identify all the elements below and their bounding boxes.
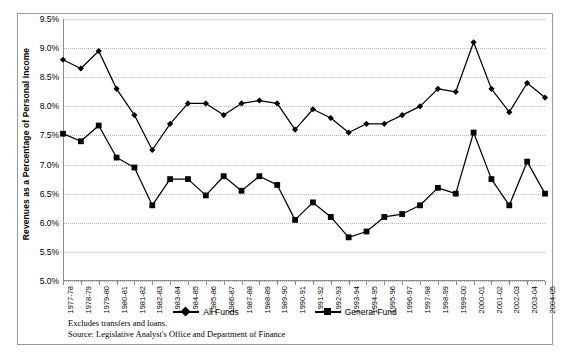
- data-point: [96, 123, 102, 129]
- data-point: [274, 182, 280, 188]
- legend-marker-square-icon: [315, 307, 341, 317]
- chart-figure: Revenues as a Percentage of Personal Inc…: [0, 0, 570, 360]
- data-point: [470, 39, 476, 45]
- data-point: [542, 191, 548, 197]
- x-axis-tick-mark: [456, 281, 457, 285]
- data-point: [203, 193, 209, 199]
- y-axis-title: Revenues as a Percentage of Personal Inc…: [21, 44, 31, 244]
- x-axis-tick-mark: [134, 281, 135, 285]
- x-axis-tick-mark: [188, 281, 189, 285]
- plot-area-wrapper: 9.5%9.0%8.5%8.0%7.5%7.0%6.5%6.0%5.5%5.0%…: [63, 19, 545, 281]
- x-axis-tick-mark: [259, 281, 260, 285]
- data-point: [471, 130, 477, 136]
- data-point: [399, 112, 405, 118]
- x-axis-tick-mark: [81, 281, 82, 285]
- y-axis-tick-label: 8.0%: [40, 101, 59, 111]
- x-axis-tick-mark: [277, 281, 278, 285]
- series-line-general-fund: [63, 126, 545, 238]
- x-axis-tick-mark: [366, 281, 367, 285]
- data-point: [149, 202, 155, 208]
- x-axis-tick-mark: [420, 281, 421, 285]
- data-point: [453, 191, 459, 197]
- y-axis-tick-label: 9.0%: [40, 43, 59, 53]
- x-axis-tick-mark: [349, 281, 350, 285]
- data-point: [435, 185, 441, 191]
- x-axis-tick-mark: [313, 281, 314, 285]
- data-point: [221, 173, 227, 179]
- series-canvas: [63, 19, 545, 281]
- data-point: [381, 121, 387, 127]
- data-point: [399, 211, 405, 217]
- legend-label-general-fund: General Fund: [345, 307, 397, 317]
- legend-marker-diamond-icon: [173, 307, 199, 317]
- chart-notes: Excludes transfers and loans. Source: Le…: [68, 318, 285, 341]
- data-point: [310, 200, 316, 206]
- data-point: [167, 176, 173, 182]
- x-axis-tick-mark: [242, 281, 243, 285]
- x-axis-tick-mark: [509, 281, 510, 285]
- data-point: [185, 176, 191, 182]
- x-axis-tick-mark: [384, 281, 385, 285]
- data-point: [203, 100, 209, 106]
- data-point: [506, 202, 512, 208]
- data-point: [453, 89, 459, 95]
- x-axis-tick-mark: [491, 281, 492, 285]
- x-axis-tick-mark: [99, 281, 100, 285]
- data-point: [364, 229, 370, 235]
- legend-item-general-fund: General Fund: [315, 307, 397, 317]
- x-axis-tick-mark: [438, 281, 439, 285]
- x-axis-tick-mark: [170, 281, 171, 285]
- x-axis-tick-mark: [117, 281, 118, 285]
- data-point: [417, 202, 423, 208]
- data-point: [239, 188, 245, 194]
- data-point: [363, 121, 369, 127]
- data-point: [524, 159, 530, 165]
- note-source: Source: Legislative Analyst's Office and…: [68, 329, 285, 340]
- data-point: [78, 138, 84, 144]
- x-axis-tick-mark: [402, 281, 403, 285]
- data-point: [292, 217, 298, 223]
- chart-legend: All Funds General Fund: [0, 307, 570, 317]
- legend-label-all-funds: All Funds: [203, 307, 238, 317]
- y-axis-tick-label: 6.0%: [40, 218, 59, 228]
- data-point: [60, 131, 66, 137]
- data-point: [256, 173, 262, 179]
- data-point: [238, 100, 244, 106]
- y-axis-tick-label: 5.5%: [40, 247, 59, 257]
- x-axis-tick-mark: [527, 281, 528, 285]
- data-point: [114, 155, 120, 161]
- plot-area: 9.5%9.0%8.5%8.0%7.5%7.0%6.5%6.0%5.5%5.0%…: [63, 19, 545, 281]
- y-axis-tick-label: 5.0%: [40, 276, 59, 286]
- y-axis-tick-label: 7.0%: [40, 160, 59, 170]
- y-axis-tick-label: 7.5%: [40, 130, 59, 140]
- data-point: [346, 234, 352, 240]
- y-axis-tick-label: 6.5%: [40, 189, 59, 199]
- data-point: [489, 176, 495, 182]
- x-axis-tick-mark: [206, 281, 207, 285]
- legend-item-all-funds: All Funds: [173, 307, 238, 317]
- data-point: [221, 112, 227, 118]
- x-axis-tick-mark: [545, 281, 546, 285]
- data-point: [381, 214, 387, 220]
- y-axis-tick-label: 9.5%: [40, 14, 59, 24]
- data-point: [256, 97, 262, 103]
- x-axis-tick-mark: [295, 281, 296, 285]
- x-axis-tick-mark: [63, 281, 64, 285]
- data-point: [132, 165, 138, 171]
- x-axis-tick-mark: [152, 281, 153, 285]
- data-point: [328, 214, 334, 220]
- x-axis-tick-mark: [474, 281, 475, 285]
- note-excludes: Excludes transfers and loans.: [68, 318, 285, 329]
- x-axis-tick-mark: [224, 281, 225, 285]
- y-axis-tick-label: 8.5%: [40, 72, 59, 82]
- x-axis-tick-mark: [331, 281, 332, 285]
